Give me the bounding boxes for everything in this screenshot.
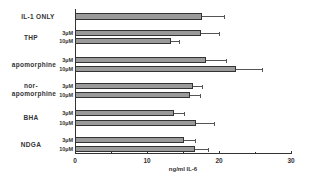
bar <box>75 83 193 89</box>
group-label-ndga: NDGA <box>16 141 46 148</box>
bar <box>75 13 202 20</box>
x-tick-10 <box>147 151 148 154</box>
conc-label-bha-3: 3µM <box>50 110 73 116</box>
x-tick-label-0: 0 <box>73 157 77 164</box>
bar <box>75 110 174 116</box>
error-bar <box>171 41 179 42</box>
conc-label-ndga-10: 10µM <box>50 146 73 152</box>
x-axis-title: ng/ml IL-6 <box>169 166 197 172</box>
conc-label-nor-3: 3µM <box>50 83 73 89</box>
error-bar <box>201 33 219 34</box>
error-bar-cap <box>195 139 196 143</box>
bar <box>75 30 201 36</box>
bar <box>75 38 171 44</box>
bar <box>75 146 195 152</box>
group-label-bha: BHA <box>16 114 46 121</box>
x-tick-0 <box>75 151 76 154</box>
x-tick-label-10: 10 <box>143 157 150 164</box>
error-bar-cap <box>184 112 185 116</box>
error-bar-cap <box>219 32 220 36</box>
error-bar <box>196 123 214 124</box>
bar <box>75 66 236 72</box>
x-tick-label-30: 30 <box>287 157 294 164</box>
x-tick-25 <box>255 152 256 154</box>
il6-bar-chart: IL-1 ONLY THP apomorphine nor- apomorphi… <box>0 0 311 179</box>
error-bar <box>202 16 224 17</box>
error-bar <box>206 60 226 61</box>
error-bar-cap <box>214 122 215 126</box>
bar <box>75 92 190 98</box>
group-label-nor-apomorphine-line1: nor- <box>16 82 46 89</box>
conc-label-thp-3: 3µM <box>50 30 73 36</box>
bar <box>75 120 196 126</box>
conc-label-nor-10: 10µM <box>50 92 73 98</box>
error-bar-cap <box>262 68 263 72</box>
error-bar <box>193 86 202 87</box>
error-bar <box>174 113 183 114</box>
x-tick-30 <box>291 151 292 154</box>
error-bar-cap <box>200 94 201 98</box>
error-bar <box>184 140 196 141</box>
group-label-il1-only: IL-1 ONLY <box>16 13 60 20</box>
error-bar-cap <box>224 15 225 19</box>
error-bar-cap <box>179 40 180 44</box>
x-tick-20 <box>219 151 220 154</box>
conc-label-apo-3: 3µM <box>50 57 73 63</box>
error-bar <box>190 95 199 96</box>
x-tick-label-20: 20 <box>215 157 222 164</box>
conc-label-thp-10: 10µM <box>50 38 73 44</box>
error-bar-cap <box>202 85 203 89</box>
error-bar-cap <box>226 59 227 63</box>
bar <box>75 137 184 143</box>
conc-label-apo-10: 10µM <box>50 66 73 72</box>
error-bar <box>195 149 208 150</box>
x-tick-5 <box>111 152 112 154</box>
error-bar-cap <box>208 148 209 152</box>
conc-label-bha-10: 10µM <box>50 120 73 126</box>
conc-label-ndga-3: 3µM <box>50 137 73 143</box>
group-label-thp: THP <box>16 34 46 41</box>
x-tick-15 <box>183 152 184 154</box>
bar <box>75 57 206 63</box>
error-bar <box>236 69 262 70</box>
y-axis-line <box>75 9 76 154</box>
